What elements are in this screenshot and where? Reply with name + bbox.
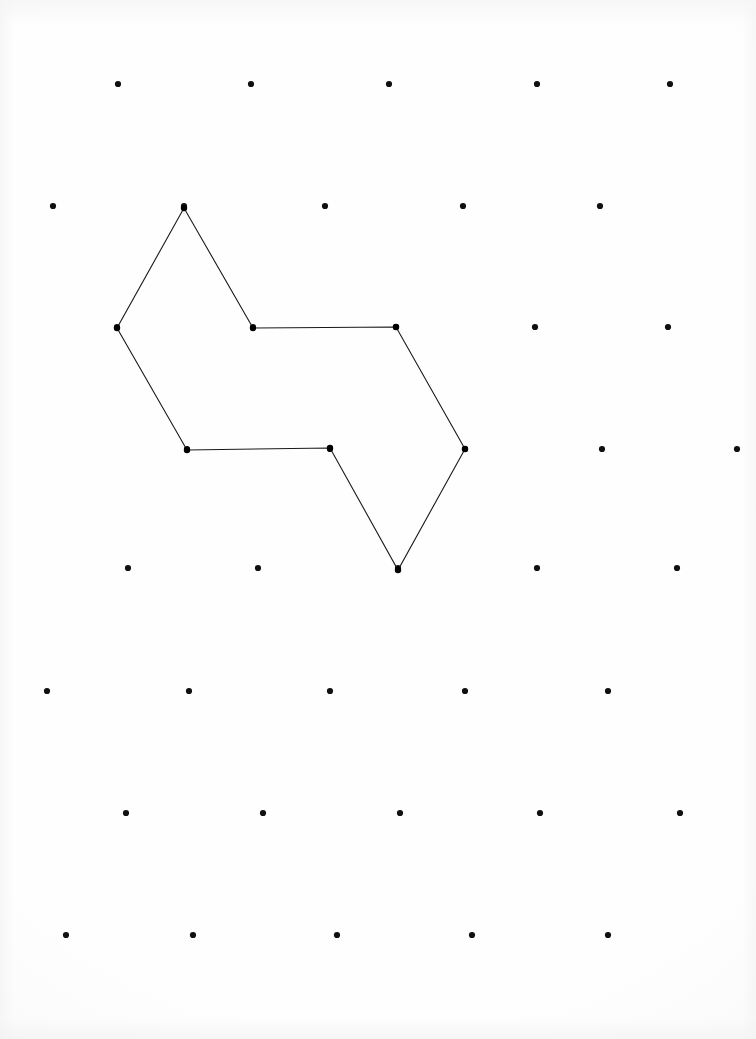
grid-dot-r5-c2[interactable] xyxy=(255,565,261,571)
grid-dot-r7-c4[interactable] xyxy=(537,810,543,816)
polygon-vertex-bottom-point[interactable] xyxy=(395,567,401,573)
polygon-vertex-right-upper[interactable] xyxy=(393,324,399,330)
grid-dot-r1-c4[interactable] xyxy=(534,81,540,87)
grid-dots-layer xyxy=(44,81,740,938)
grid-dot-r5-c5[interactable] xyxy=(674,565,680,571)
grid-dot-r6-c2[interactable] xyxy=(186,688,192,694)
grid-dot-r3-c5[interactable] xyxy=(665,324,671,330)
grid-dot-r8-c4[interactable] xyxy=(469,932,475,938)
figure-canvas xyxy=(0,0,756,1039)
polygon-vertex-left-lower[interactable] xyxy=(184,447,190,453)
grid-dot-r2-c5[interactable] xyxy=(597,203,603,209)
polygon-outline[interactable] xyxy=(117,208,465,570)
grid-dot-r2-c4[interactable] xyxy=(460,203,466,209)
dot-grid-figure xyxy=(0,0,756,1039)
grid-dot-r7-c1[interactable] xyxy=(123,810,129,816)
grid-dot-r8-c5[interactable] xyxy=(605,932,611,938)
grid-dot-r6-c1[interactable] xyxy=(44,688,50,694)
grid-dot-r8-c3[interactable] xyxy=(334,932,340,938)
grid-dot-r1-c2[interactable] xyxy=(248,81,254,87)
polygon-vertex-left-upper[interactable] xyxy=(114,325,120,331)
polygon-vertex-right-point[interactable] xyxy=(462,446,468,452)
grid-dot-r8-c1[interactable] xyxy=(63,932,69,938)
grid-dot-r1-c3[interactable] xyxy=(386,81,392,87)
grid-dot-r7-c3[interactable] xyxy=(397,810,403,816)
grid-dot-r6-c4[interactable] xyxy=(462,688,468,694)
grid-dot-r6-c5[interactable] xyxy=(605,688,611,694)
grid-dot-r7-c5[interactable] xyxy=(677,810,683,816)
grid-dot-r1-c1[interactable] xyxy=(115,81,121,87)
polygon-vertex-dots-layer xyxy=(114,205,468,573)
grid-dot-r5-c4[interactable] xyxy=(534,565,540,571)
grid-dot-r3-c4[interactable] xyxy=(532,324,538,330)
grid-dot-r5-c1[interactable] xyxy=(125,565,131,571)
grid-dot-r2-c1[interactable] xyxy=(50,203,56,209)
polygon-layer xyxy=(117,208,465,570)
polygon-vertex-notch-bottom-left[interactable] xyxy=(327,445,333,451)
grid-dot-r2-c3[interactable] xyxy=(322,203,328,209)
grid-dot-r4-c4[interactable] xyxy=(599,446,605,452)
polygon-vertex-notch-top-left[interactable] xyxy=(250,325,256,331)
grid-dot-r4-c5[interactable] xyxy=(734,446,740,452)
grid-dot-r1-c5[interactable] xyxy=(667,81,673,87)
grid-dot-r8-c2[interactable] xyxy=(190,932,196,938)
polygon-vertex-apex-top[interactable] xyxy=(181,205,187,211)
grid-dot-r7-c2[interactable] xyxy=(260,810,266,816)
grid-dot-r6-c3[interactable] xyxy=(327,688,333,694)
